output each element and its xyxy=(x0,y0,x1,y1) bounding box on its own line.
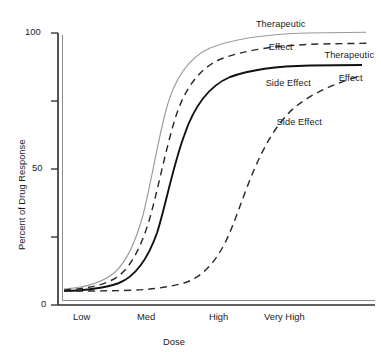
dose-response-chart: 100 50 0 Percent of Drug Response Low Me… xyxy=(0,0,381,352)
series-label-side-1-text: Side Effect xyxy=(266,78,311,88)
series-label-therapeutic-2-line1: Therapeutic xyxy=(324,50,374,60)
x-tick-label-high: High xyxy=(209,311,228,322)
x-tick-label-med: Med xyxy=(137,311,155,322)
series-label-therapeutic-1: Therapeutic Effect xyxy=(228,7,323,65)
series-label-side-2: Side Effect xyxy=(266,105,336,140)
series-label-therapeutic-1-line1: Therapeutic xyxy=(256,19,306,29)
x-tick-label-low: Low xyxy=(73,311,90,322)
y-tick-label-50: 50 xyxy=(32,162,42,173)
series-label-side-1: Side Effect xyxy=(255,66,325,101)
y-tick-label-0: 0 xyxy=(41,298,46,309)
series-label-therapeutic-1-line2: Effect xyxy=(269,42,293,52)
x-axis-title: Dose xyxy=(163,336,185,347)
series-label-therapeutic-2-line2: Effect xyxy=(325,73,363,85)
y-tick-label-100: 100 xyxy=(25,26,41,37)
series-label-side-2-text: Side Effect xyxy=(277,117,322,127)
y-axis-title: Percent of Drug Response xyxy=(16,140,27,250)
x-tick-label-very-high: Very High xyxy=(264,311,305,322)
